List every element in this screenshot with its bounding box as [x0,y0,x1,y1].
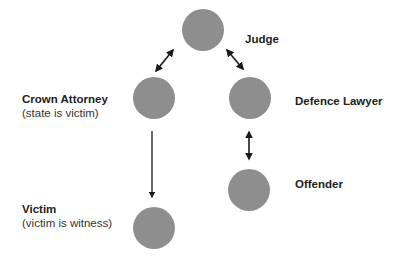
node-victim [133,207,175,249]
label-crown-attorney: Crown Attorney (state is victim) [22,92,108,120]
node-defence-lawyer [229,77,271,119]
label-victim: Victim (victim is witness) [22,202,112,230]
edge-crown-judge [156,50,173,71]
label-judge-title: Judge [245,32,279,46]
label-offender: Offender [295,177,343,191]
label-crown-subtitle: (state is victim) [22,106,108,120]
label-defence-lawyer: Defence Lawyer [295,94,383,108]
label-judge: Judge [245,32,279,46]
label-crown-title: Crown Attorney [22,92,108,106]
label-offender-title: Offender [295,177,343,191]
node-judge [182,9,224,51]
node-crown-attorney [133,77,175,119]
label-defence-title: Defence Lawyer [295,94,383,108]
label-victim-subtitle: (victim is witness) [22,216,112,230]
node-offender [228,169,270,211]
edge-judge-defence [227,50,243,69]
label-victim-title: Victim [22,202,112,216]
